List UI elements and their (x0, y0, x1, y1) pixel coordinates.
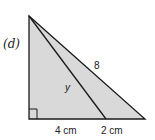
base-left-label: 4 cm (55, 125, 77, 136)
inner-segment-label: y (64, 82, 71, 93)
outer-triangle (29, 16, 145, 119)
part-label: (d) (3, 37, 20, 51)
base-right-label: 2 cm (101, 125, 123, 136)
hypotenuse-label: 8 (94, 60, 100, 71)
triangle-diagram: (d) 8 y 4 cm 2 cm (0, 0, 155, 140)
